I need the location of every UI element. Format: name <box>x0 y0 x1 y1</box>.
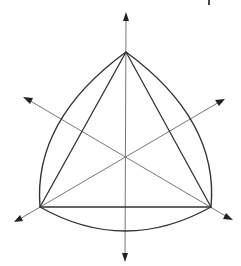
arrow-down-icon <box>122 253 128 262</box>
clipped-glyph-artifact <box>208 0 210 5</box>
arrow-lower-left-icon <box>14 215 23 222</box>
arrow-up-icon <box>123 12 129 21</box>
arrow-upper-right-icon <box>215 99 225 106</box>
reuleaux-triangle-diagram <box>0 0 241 266</box>
arrow-lower-right-icon <box>223 213 233 220</box>
arrow-upper-left-icon <box>23 97 33 104</box>
axis-lower-right-upper-left <box>27 99 229 218</box>
